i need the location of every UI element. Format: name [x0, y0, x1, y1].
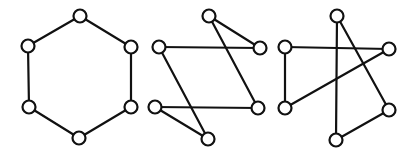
- edge-e-f: [28, 46, 29, 107]
- edge-b-f: [159, 47, 260, 48]
- vertex-f-circle-icon: [279, 41, 292, 54]
- vertex-d-circle-icon: [330, 134, 343, 147]
- vertex-e-circle-icon: [279, 102, 292, 115]
- vertex-b-circle-icon: [383, 43, 396, 56]
- edge-d-e: [29, 107, 79, 138]
- vertex-c-circle-icon: [383, 104, 396, 117]
- vertex-e-circle-icon: [23, 101, 36, 114]
- edge-d-c: [336, 110, 389, 140]
- edge-c-a: [209, 16, 258, 108]
- vertex-b-circle-icon: [254, 42, 267, 55]
- vertex-d-circle-icon: [202, 133, 215, 146]
- vertex-f-circle-icon: [22, 40, 35, 53]
- edge-f-a: [28, 16, 80, 46]
- vertex-a-circle-icon: [74, 10, 87, 23]
- graph-hexagon: [22, 10, 138, 145]
- edge-e-c: [155, 107, 258, 108]
- vertex-d-circle-icon: [73, 132, 86, 145]
- vertex-a-circle-icon: [331, 10, 344, 23]
- graph-diagram: [0, 0, 417, 158]
- vertex-e-circle-icon: [149, 101, 162, 114]
- edge-a-b: [80, 16, 131, 47]
- vertex-b-circle-icon: [125, 41, 138, 54]
- edge-f-b: [285, 47, 389, 49]
- vertex-a-circle-icon: [203, 10, 216, 23]
- graph-crossed-2: [279, 10, 396, 147]
- vertex-c-circle-icon: [125, 101, 138, 114]
- graph-crossed-1: [149, 10, 267, 146]
- edge-c-d: [79, 107, 131, 138]
- vertex-c-circle-icon: [252, 102, 265, 115]
- vertex-f-circle-icon: [153, 41, 166, 54]
